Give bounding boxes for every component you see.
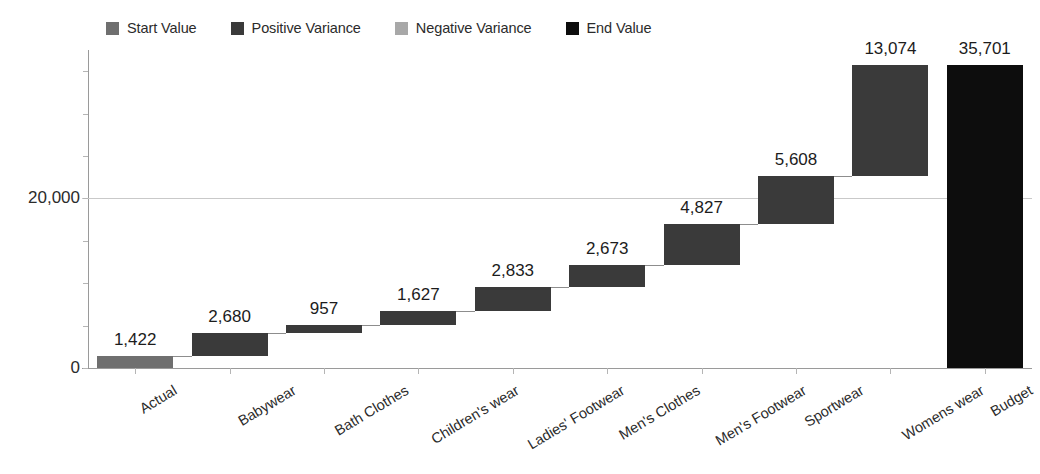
bar-value-label: 2,673 — [586, 239, 629, 259]
square-swatch-icon — [395, 22, 408, 35]
chart-legend: Start ValuePositive VarianceNegative Var… — [106, 18, 652, 38]
legend-item[interactable]: Positive Variance — [231, 20, 361, 36]
bar-budget[interactable] — [947, 65, 1023, 368]
bar-value-label: 13,074 — [864, 39, 916, 59]
y-axis-tick-label: 20,000 — [28, 188, 80, 208]
square-swatch-icon — [566, 22, 579, 35]
legend-item[interactable]: End Value — [566, 20, 652, 36]
bar-sportwear[interactable] — [758, 176, 834, 224]
bar-men-s-footwear[interactable] — [664, 224, 740, 265]
gridline — [82, 198, 1032, 199]
legend-item-label: Positive Variance — [252, 20, 361, 36]
x-axis-category-label: Budget — [987, 382, 1035, 419]
waterfall-connector — [740, 224, 758, 225]
legend-item-label: End Value — [587, 20, 652, 36]
waterfall-connector — [362, 325, 380, 326]
y-axis-minor-tick — [83, 114, 88, 115]
bar-actual[interactable] — [97, 356, 173, 368]
legend-item[interactable]: Start Value — [106, 20, 197, 36]
bar-ladies-footwear[interactable] — [475, 287, 551, 311]
x-axis-category-label: Actual — [137, 382, 180, 416]
bar-value-label: 1,627 — [397, 285, 440, 305]
waterfall-chart: Start ValuePositive VarianceNegative Var… — [0, 0, 1040, 474]
legend-item-label: Start Value — [127, 20, 197, 36]
bar-value-label: 957 — [310, 299, 338, 319]
x-axis-category-label: Bath Clothes — [332, 382, 411, 438]
bar-value-label: 2,833 — [492, 261, 535, 281]
x-axis-labels: ActualBabywearBath ClothesChildren's wea… — [88, 368, 1032, 474]
y-axis-labels: 020,000 — [0, 50, 80, 368]
bar-babywear[interactable] — [192, 333, 268, 356]
legend-item-label: Negative Variance — [416, 20, 532, 36]
y-axis-minor-tick — [83, 283, 88, 284]
x-axis-category-label: Children's wear — [429, 382, 523, 447]
bar-value-label: 35,701 — [959, 39, 1011, 59]
legend-item[interactable]: Negative Variance — [395, 20, 532, 36]
waterfall-connector — [551, 287, 569, 288]
waterfall-connector — [173, 356, 191, 357]
y-axis-minor-tick — [83, 156, 88, 157]
x-axis-category-label: Men's Footwear — [712, 382, 808, 449]
y-axis-minor-tick — [83, 326, 88, 327]
y-axis-line — [88, 50, 89, 368]
bar-bath-clothes[interactable] — [286, 325, 362, 333]
y-axis-tick-label: 0 — [71, 358, 80, 378]
y-axis-minor-tick — [83, 241, 88, 242]
waterfall-connector — [268, 333, 286, 334]
x-axis-category-label: Womens wear — [900, 382, 987, 443]
bar-value-label: 1,422 — [114, 330, 157, 350]
square-swatch-icon — [231, 22, 244, 35]
waterfall-connector — [834, 176, 852, 177]
bar-value-label: 4,827 — [680, 198, 723, 218]
bar-children-s-wear[interactable] — [380, 311, 456, 325]
x-axis-category-label: Ladies' Footwear — [525, 382, 628, 452]
square-swatch-icon — [106, 22, 119, 35]
waterfall-connector — [456, 311, 474, 312]
x-axis-category-label: Sportwear — [801, 382, 866, 430]
x-axis-category-label: Men's Clothes — [616, 382, 703, 443]
bar-value-label: 2,680 — [208, 307, 251, 327]
y-axis-minor-tick — [83, 198, 88, 199]
bar-value-label: 5,608 — [775, 150, 818, 170]
waterfall-connector — [645, 265, 663, 266]
y-axis-minor-tick — [83, 71, 88, 72]
x-axis-category-label: Babywear — [235, 382, 299, 429]
bar-men-s-clothes[interactable] — [569, 265, 645, 288]
plot-area: 1,4222,6809571,6272,8332,6734,8275,60813… — [88, 50, 1032, 368]
bar-womens-wear[interactable] — [852, 65, 928, 176]
